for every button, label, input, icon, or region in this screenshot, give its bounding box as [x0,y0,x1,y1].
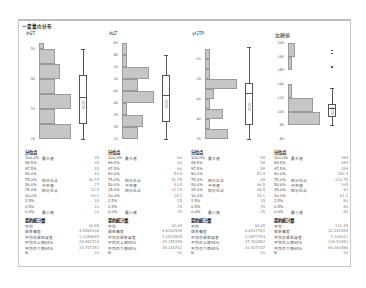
summary-header: 要約統計量 [25,217,45,223]
quantile-row: 75.0%四分位点51.75 [108,178,182,183]
summary-row: 平均の上側95%47.762853 [191,240,265,245]
quantile-row: 90.0%54.9 [108,172,182,177]
histogram-bar [39,79,55,94]
histogram-bar [205,49,210,59]
quantile-row: 0.5%80 [274,205,348,210]
histogram-plot: 656055504540353025 [106,39,186,149]
axis-tick: 80 [272,123,284,127]
quantile-row: 100.0%最大値189 [274,156,348,161]
histogram-bar [122,43,127,55]
summary-row: 平均の上側95%126.53951 [274,240,348,245]
summary-row: 平均の標準誤差2.1524925 [108,235,182,240]
median-line [245,93,253,94]
quantile-row: 75.0%四分位点49 [191,178,265,183]
axis-tick: 25 [106,137,118,141]
quantile-row: 10.0%28.2 [108,194,182,199]
column-title: 血糖値 [275,31,290,38]
quantile-row: 90.0%33 [25,172,99,177]
distribution-panel: 一変量の分布 AST35302520分位点100.0%最大値3599.5%359… [18,19,351,267]
quantile-row: 75.0%四分位点30.75 [25,178,99,183]
summary-row: 平均111.45 [274,224,348,229]
quantile-row: 0.0%最小値80 [274,210,348,215]
summary-row: N20 [108,251,182,256]
quantile-row: 0.0%最小値35 [191,210,265,215]
quantile-row: 50.0%中央値43.5 [108,183,182,188]
axis-tick: 160 [272,68,284,72]
histogram-bar [122,91,154,103]
histogram-bar [288,57,292,71]
quantile-row: 0.0%最小値20 [25,210,99,215]
quantile-row: 97.5%35 [25,167,99,172]
axis-tick: 60 [106,53,118,57]
axis-tick: 200 [272,41,284,45]
summary-row: 平均の標準誤差7.209411 [274,235,348,240]
quantile-row: 99.5%60 [108,161,182,166]
whisker-cap [164,55,168,56]
distribution-column: 血糖値2001801601401201008060分位点100.0%最大値189… [272,31,352,267]
axis-tick: 140 [272,82,284,86]
outlier-point [331,50,332,51]
whisker-cap [330,88,334,89]
summary-row: 標準偏差6.6512761 [191,229,265,234]
histogram-bar [122,67,149,79]
summary-row: 平均の標準誤差1.0189645 [25,235,99,240]
summary-row: 標準偏差9.6262538 [108,229,182,234]
axis-tick: 35 [23,47,35,51]
histogram-bar [205,89,214,99]
axis-tick: 50 [189,77,201,81]
axis-tick: 50 [106,77,118,81]
axis-tick: 45 [106,89,118,93]
distribution-column: γGTP5550454035分位点100.0%最大値5899.5%5897.5%… [189,31,269,267]
summary-row: 平均の下側95%38.144742 [108,246,182,251]
axis-tick: 30 [106,125,118,129]
quantile-row: 2.5%20 [25,199,99,204]
histogram-bar [205,109,223,119]
quantile-row: 75.0%四分位点110.75 [274,178,348,183]
mean-diamond-icon [165,93,168,101]
quantiles-header: 分位点 [191,149,203,155]
quantile-row: 0.5%25 [108,205,182,210]
quantile-row: 0.5%20 [25,205,99,210]
histogram-bar [122,103,127,115]
summary-header: 要約統計量 [274,217,294,223]
axis-tick: 40 [106,101,118,105]
histogram-bar [122,127,138,139]
histogram-bar [288,112,320,126]
histogram-bar [205,129,228,139]
axis-tick: 65 [106,41,118,45]
histogram-bar [39,43,44,49]
summary-row: 平均の下側95%41.537147 [191,246,265,251]
summary-header: 要約統計量 [191,217,211,223]
quantile-row: 100.0%最大値58 [191,156,265,161]
summary-row: N20 [274,251,348,256]
quantile-row: 0.0%最小値25 [108,210,182,215]
distribution-column: ALT656055504540353025分位点100.0%最大値6099.5%… [106,31,186,267]
histogram-bar [39,64,60,79]
column-title: AST [26,31,35,36]
axis-tick: 35 [189,137,201,141]
axis-tick: 120 [272,96,284,100]
quantile-row: 2.5%25 [108,199,182,204]
whisker-cap [247,139,251,140]
axis-tick: 55 [189,57,201,61]
quantile-row: 100.0%最大値60 [108,156,182,161]
summary-row: N20 [191,251,265,256]
axis-tick: 100 [272,110,284,114]
quantile-row: 97.5%58 [191,167,265,172]
quantile-row: 10.0%81.2 [274,194,348,199]
quantile-row: 25.0%四分位点32.25 [108,188,182,193]
histogram-bar [205,79,237,89]
histogram-bar [39,94,71,109]
quantiles-header: 分位点 [25,149,37,155]
quantile-row: 99.5%35 [25,161,99,166]
mean-diamond-icon [331,100,334,108]
quantile-row: 25.0%四分位点92 [274,188,348,193]
quantiles-header: 分位点 [274,149,286,155]
quantile-row: 90.0%182.9 [274,172,348,177]
quantile-row: 25.0%四分位点38.5 [191,188,265,193]
outlier-point [331,66,332,67]
summary-row: 平均の上側95%28.982718 [25,240,99,245]
whisker-cap [330,125,334,126]
summary-row: 平均の上側95%47.155258 [108,240,182,245]
whisker-cap [247,47,251,48]
